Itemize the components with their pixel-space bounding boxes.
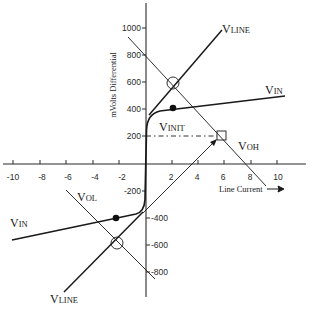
operating-point-dot-bottom: [113, 215, 120, 222]
vin-label-right: VIN: [265, 83, 283, 97]
x-tick-label: 10: [273, 172, 283, 182]
y-tick-label: -800: [151, 267, 168, 277]
x-axis-title: Line Current: [219, 184, 263, 194]
x-tick-label: 4: [195, 172, 200, 182]
x-tick-label: -10: [7, 172, 20, 182]
voh-label: VOH: [238, 139, 259, 153]
y-tick-label: 1000: [122, 23, 141, 33]
x-tick-label: 8: [248, 172, 253, 182]
y-tick-label: 600: [127, 77, 141, 87]
y-tick-label: -600: [151, 240, 168, 250]
vline-label-bottom: VLINE: [50, 292, 78, 306]
y-tick-label: -400: [151, 213, 168, 223]
y-tick-label: 200: [127, 131, 141, 141]
x-tick-label: 6: [221, 172, 226, 182]
y-axis-title: mVolts Differential: [108, 52, 118, 118]
vline-line-bottom: [64, 212, 143, 292]
vol-label: VOL: [77, 190, 97, 204]
vline-line-top: [149, 30, 222, 115]
y-tick-label: 400: [127, 104, 141, 114]
x-tick-label: -8: [38, 172, 46, 182]
axes: [3, 3, 306, 297]
y-tick-label: 800: [127, 50, 141, 60]
voh-square-marker: [217, 131, 226, 140]
characteristic-diagram: -10 -8 -6 -4 -2 2 4 6 8 10 1000 800 600 …: [0, 0, 312, 311]
vinit-label: VINIT: [159, 120, 185, 134]
vline-label-top: VLINE: [222, 22, 250, 36]
x-axis-arrow-icon: [267, 186, 284, 192]
x-tick-label: -4: [91, 172, 99, 182]
vin-label-left: VIN: [10, 216, 28, 230]
y-tick-label: -200: [124, 186, 141, 196]
x-tick-label: -2: [118, 172, 126, 182]
x-tick-label: 2: [169, 172, 174, 182]
x-tick-label: -6: [64, 172, 72, 182]
y-axis-tick-labels: 1000 800 600 400 200 -200 -400 -600 -800: [122, 23, 168, 277]
vinit-transition-line: [143, 140, 216, 213]
operating-point-dot-top: [170, 105, 177, 112]
